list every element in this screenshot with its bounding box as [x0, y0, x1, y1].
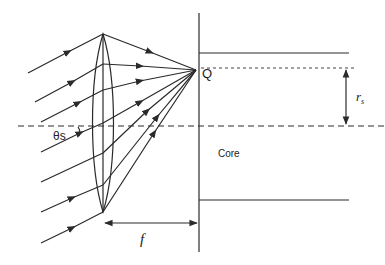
incident-ray	[28, 34, 103, 73]
incident-ray	[41, 185, 103, 212]
refracted-ray	[103, 70, 196, 123]
point-q-label: Q	[202, 66, 212, 81]
incident-ray	[41, 153, 103, 182]
incident-ray	[41, 123, 103, 152]
refracted-rays	[103, 34, 196, 212]
refracted-ray	[103, 70, 196, 185]
rs-label-sub: s	[361, 97, 364, 106]
incident-ray	[41, 212, 103, 243]
focal-length-label: f	[140, 231, 146, 247]
incident-ray	[41, 90, 103, 122]
core-label: Core	[218, 148, 240, 159]
angle-arc	[78, 127, 80, 136]
lens-fiber-diagram: Q θs rs f Core	[0, 0, 385, 265]
refracted-ray	[103, 70, 196, 212]
rs-label: rs	[356, 89, 364, 106]
theta-s-label: θs	[53, 129, 66, 143]
